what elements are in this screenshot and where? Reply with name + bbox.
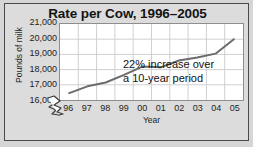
chart-figure: Rate per Cow, 1996–2005 Pounds of milk 2… xyxy=(0,0,253,147)
annotation-line-1: 22% increase over xyxy=(123,58,247,72)
y-axis-tick: 18,000 xyxy=(13,64,57,74)
x-axis-tick: 00 xyxy=(132,103,152,113)
x-axis-tick: 97 xyxy=(77,103,97,113)
chart-frame: Rate per Cow, 1996–2005 Pounds of milk 2… xyxy=(4,3,249,141)
axis-break-icon xyxy=(45,94,71,116)
y-axis-tick: 20,000 xyxy=(13,33,57,43)
chart-annotation: 22% increase over a 10-year period xyxy=(123,58,247,85)
x-axis-tick: 98 xyxy=(95,103,115,113)
y-axis-tick: 19,000 xyxy=(13,48,57,58)
x-axis-tick: 03 xyxy=(188,103,208,113)
y-axis-tick: 21,000 xyxy=(13,17,57,27)
x-axis-tick: 04 xyxy=(206,103,226,113)
x-axis-tick: 05 xyxy=(225,103,245,113)
x-axis-label: Year xyxy=(59,115,244,125)
x-axis-tick: 02 xyxy=(169,103,189,113)
y-axis-tick-labels: 21,00020,00019,00018,00017,00016,000 xyxy=(11,23,57,101)
y-axis-tick: 17,000 xyxy=(13,79,57,89)
x-axis-tick-labels: 96979899000102030405 xyxy=(59,103,244,115)
x-axis-tick: 99 xyxy=(114,103,134,113)
x-axis-tick: 01 xyxy=(151,103,171,113)
annotation-line-2: a 10-year period xyxy=(123,72,247,86)
